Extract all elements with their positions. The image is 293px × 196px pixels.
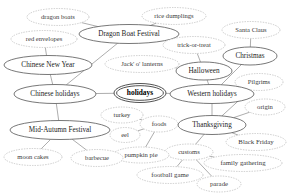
node-label: Chinese holidays bbox=[30, 90, 80, 98]
graph-node-turkey[interactable]: turkey bbox=[101, 107, 143, 123]
node-label: dragon boats bbox=[41, 13, 75, 20]
node-label: rice dumplings bbox=[154, 12, 194, 19]
graph-node-jack_o_lanterns[interactable]: Jack' o' lanterns bbox=[105, 56, 179, 73]
graph-node-chinese_holidays[interactable]: Chinese holidays bbox=[14, 85, 96, 104]
graph-node-customs[interactable]: customs bbox=[165, 144, 213, 160]
graph-edge bbox=[81, 23, 98, 27]
graph-node-dragon_boat_fest[interactable]: Dragon Boat Festival bbox=[79, 25, 179, 44]
graph-edge bbox=[41, 139, 51, 149]
graph-edge bbox=[50, 74, 52, 84]
graph-edge bbox=[146, 132, 155, 147]
graph-node-halloween[interactable]: Halloween bbox=[176, 62, 232, 80]
graph-node-rice_dumplings[interactable]: rice dumplings bbox=[142, 8, 206, 25]
graph-node-red_envelopes[interactable]: red envelopes bbox=[11, 31, 77, 48]
graph-node-family_gathering[interactable]: family gathering bbox=[204, 155, 282, 172]
node-label: trick-or-treat bbox=[177, 41, 211, 48]
graph-edge bbox=[232, 133, 238, 135]
graph-edge bbox=[197, 53, 200, 62]
node-label: Thanksgiving bbox=[192, 121, 232, 129]
node-label: Jack' o' lanterns bbox=[121, 60, 163, 67]
graph-edge bbox=[138, 129, 144, 131]
node-label: parade bbox=[210, 180, 228, 187]
node-label: turkey bbox=[114, 111, 132, 118]
node-label: Chinese New Year bbox=[21, 61, 75, 69]
node-label: barbecue bbox=[85, 154, 109, 161]
node-label: pumpkin pie bbox=[124, 151, 157, 158]
graph-node-foods[interactable]: foods bbox=[140, 116, 178, 132]
graph-node-black_friday[interactable]: Black Friday bbox=[226, 134, 286, 151]
graph-edge bbox=[196, 134, 205, 144]
graph-node-dragon_boats[interactable]: dragon boats bbox=[27, 9, 89, 26]
graph-edge bbox=[207, 80, 209, 85]
node-label: moon cakes bbox=[17, 153, 49, 160]
graph-edge bbox=[177, 160, 183, 167]
graph-node-christmas[interactable]: Christmas bbox=[223, 47, 277, 65]
graph-node-thanksgiving[interactable]: Thanksgiving bbox=[178, 116, 246, 135]
concept-map-canvas: dragon boatsrice dumplingsSanta Clausred… bbox=[0, 0, 293, 196]
graph-edge bbox=[56, 104, 58, 121]
node-label: Dragon Boat Festival bbox=[98, 30, 159, 38]
graph-node-origin[interactable]: origin bbox=[245, 99, 285, 115]
node-label: football game bbox=[151, 171, 189, 178]
graph-node-football_game[interactable]: football game bbox=[137, 167, 203, 184]
graph-node-mid_autumn_fest[interactable]: Mid-Autumn Festival bbox=[10, 121, 110, 140]
node-label: Pilgrims bbox=[248, 78, 271, 85]
graph-node-santa_claus[interactable]: Santa Claus bbox=[222, 22, 280, 39]
concept-map-graph: dragon boatsrice dumplingsSanta Clausred… bbox=[0, 0, 293, 196]
graph-node-chinese_new_year[interactable]: Chinese New Year bbox=[4, 56, 92, 75]
graph-node-eel[interactable]: eel bbox=[110, 128, 140, 143]
node-label: foods bbox=[152, 120, 167, 127]
graph-node-holidays[interactable]: holidays bbox=[114, 84, 166, 103]
node-label: Halloween bbox=[188, 67, 220, 75]
nodes-layer: dragon boatsrice dumplingsSanta Clausred… bbox=[4, 8, 286, 193]
node-label: Christmas bbox=[235, 52, 264, 60]
node-label: origin bbox=[257, 103, 273, 110]
node-label: customs bbox=[178, 148, 200, 155]
node-label: Black Friday bbox=[238, 138, 274, 145]
node-label: Western holidays bbox=[187, 90, 237, 98]
node-label: red envelopes bbox=[26, 35, 63, 42]
graph-node-barbecue[interactable]: barbecue bbox=[71, 150, 123, 167]
graph-node-moon_cakes[interactable]: moon cakes bbox=[4, 149, 62, 166]
node-label: family gathering bbox=[220, 159, 266, 166]
graph-node-trick_or_treat[interactable]: trick-or-treat bbox=[163, 37, 225, 54]
graph-edge bbox=[234, 112, 250, 117]
node-label: Mid-Autumn Festival bbox=[29, 126, 92, 134]
node-label: eel bbox=[121, 131, 129, 138]
node-label: holidays bbox=[127, 88, 153, 97]
graph-node-parade[interactable]: parade bbox=[197, 176, 241, 192]
node-label: Santa Claus bbox=[235, 26, 267, 33]
graph-node-western_holidays[interactable]: Western holidays bbox=[170, 85, 254, 104]
graph-edge bbox=[45, 47, 46, 55]
graph-edge bbox=[72, 139, 87, 150]
